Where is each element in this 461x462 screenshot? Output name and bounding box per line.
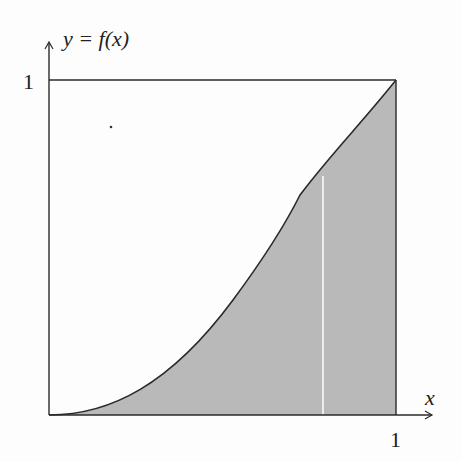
- stray-dot: [110, 126, 113, 129]
- y-axis-label: y = f(x): [63, 26, 129, 52]
- graph-canvas: [0, 0, 461, 462]
- x-axis-label: x: [425, 385, 435, 411]
- shaded-area: [49, 80, 396, 415]
- x-tick-label: 1: [390, 427, 401, 453]
- y-tick-label: 1: [23, 69, 34, 95]
